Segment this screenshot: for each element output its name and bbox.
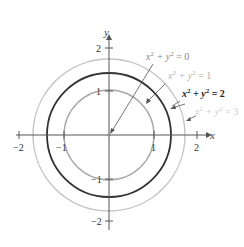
x-axis-label: x (209, 129, 215, 141)
label-c2: x2 + y2 = 2 (181, 87, 225, 99)
y-tick-1: 1 (96, 86, 101, 97)
label-c3: x2 + y2 = 3 (194, 105, 238, 117)
x-tick-neg2: −2 (13, 142, 24, 153)
label-c1: x2 + y2 = 1 (167, 69, 211, 81)
y-tick-neg2: −2 (91, 216, 102, 227)
x-tick-neg1: −1 (56, 142, 67, 153)
level-curves-diagram: −2 −1 1 2 2 1 −1 −2 x y x2 + y2 = 0 x2 +… (0, 0, 244, 247)
y-tick-2: 2 (96, 43, 101, 54)
x-tick-1: 1 (151, 142, 156, 153)
x-tick-2: 2 (194, 142, 199, 153)
y-axis-label: y (103, 26, 109, 38)
label-c0: x2 + y2 = 0 (145, 50, 189, 62)
y-tick-neg1: −1 (91, 174, 102, 185)
